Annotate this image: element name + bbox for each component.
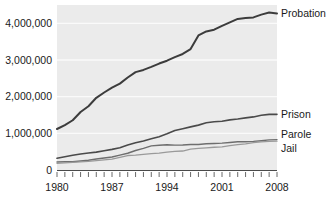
series-labels: ProbationPrisonParoleJail xyxy=(281,7,326,154)
x-axis-tickmarks xyxy=(57,172,277,177)
series-label-parole: Parole xyxy=(281,128,312,140)
x-axis-tick-label: 1994 xyxy=(155,181,179,193)
correctional-population-line-chart: 01,000,0002,000,0003,000,0004,000,000 19… xyxy=(0,0,332,197)
y-axis-tick-label: 0 xyxy=(46,164,52,176)
y-axis-tick-label: 3,000,000 xyxy=(5,54,52,66)
series-label-prison: Prison xyxy=(281,108,311,120)
series-label-jail: Jail xyxy=(281,142,297,154)
y-axis-labels: 01,000,0002,000,0003,000,0004,000,000 xyxy=(5,17,52,176)
x-axis-tick-label: 2001 xyxy=(210,181,234,193)
y-axis-tick-label: 4,000,000 xyxy=(5,17,52,29)
x-axis-tick-label: 2008 xyxy=(265,181,289,193)
x-axis-tick-label: 1980 xyxy=(45,181,69,193)
x-axis-labels: 19801987199420012008 xyxy=(45,181,289,193)
y-axis-tick-label: 2,000,000 xyxy=(5,90,52,102)
chart-canvas: 01,000,0002,000,0003,000,0004,000,000 19… xyxy=(0,0,332,197)
x-axis-tick-label: 1987 xyxy=(100,181,124,193)
series-label-probation: Probation xyxy=(281,7,326,19)
y-axis-tick-label: 1,000,000 xyxy=(5,127,52,139)
